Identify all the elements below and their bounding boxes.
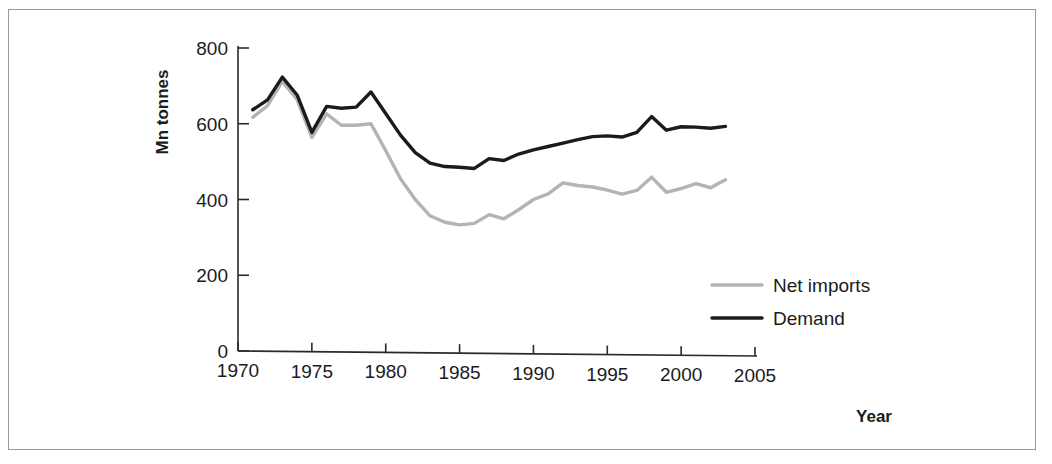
y-axis-tick-label: 800 [196,38,228,59]
x-axis-tick-label: 1995 [586,364,628,385]
x-axis-line [238,351,757,356]
series-line-demand [253,77,726,168]
y-axis-tick-label: 400 [196,190,228,211]
x-axis-tick-label: 1990 [512,363,554,384]
line-chart: 0200400600800 19701975198019851990199520… [0,0,1052,464]
y-axis-tick-label: 0 [217,341,228,362]
x-axis-tick-label: 1980 [365,361,407,382]
x-axis-tick-label: 2005 [734,365,776,386]
y-axis-tick-labels: 0200400600800 [196,38,228,362]
x-axis-tick-labels: 19701975198019851990199520002005 [217,360,776,386]
legend-label-demand: Demand [773,308,845,329]
y-axis-tick-label: 600 [196,114,228,135]
chart-canvas: 0200400600800 19701975198019851990199520… [0,0,1052,464]
figure-page: 0200400600800 19701975198019851990199520… [0,0,1052,464]
x-axis-tick-label: 1970 [217,360,259,381]
x-axis-tick-label: 1975 [291,361,333,382]
legend-label-net-imports: Net imports [773,275,870,296]
x-axis-title: Year [856,407,892,426]
x-axis-tick-label: 2000 [660,364,702,385]
chart-legend: Net imports Demand [712,275,870,329]
series-line-net-imports [253,81,726,225]
y-axis-tick-label: 200 [196,265,228,286]
y-axis-ticks [238,48,249,351]
x-axis-tick-label: 1985 [438,362,480,383]
y-axis-title: Mn tonnes [153,70,172,155]
